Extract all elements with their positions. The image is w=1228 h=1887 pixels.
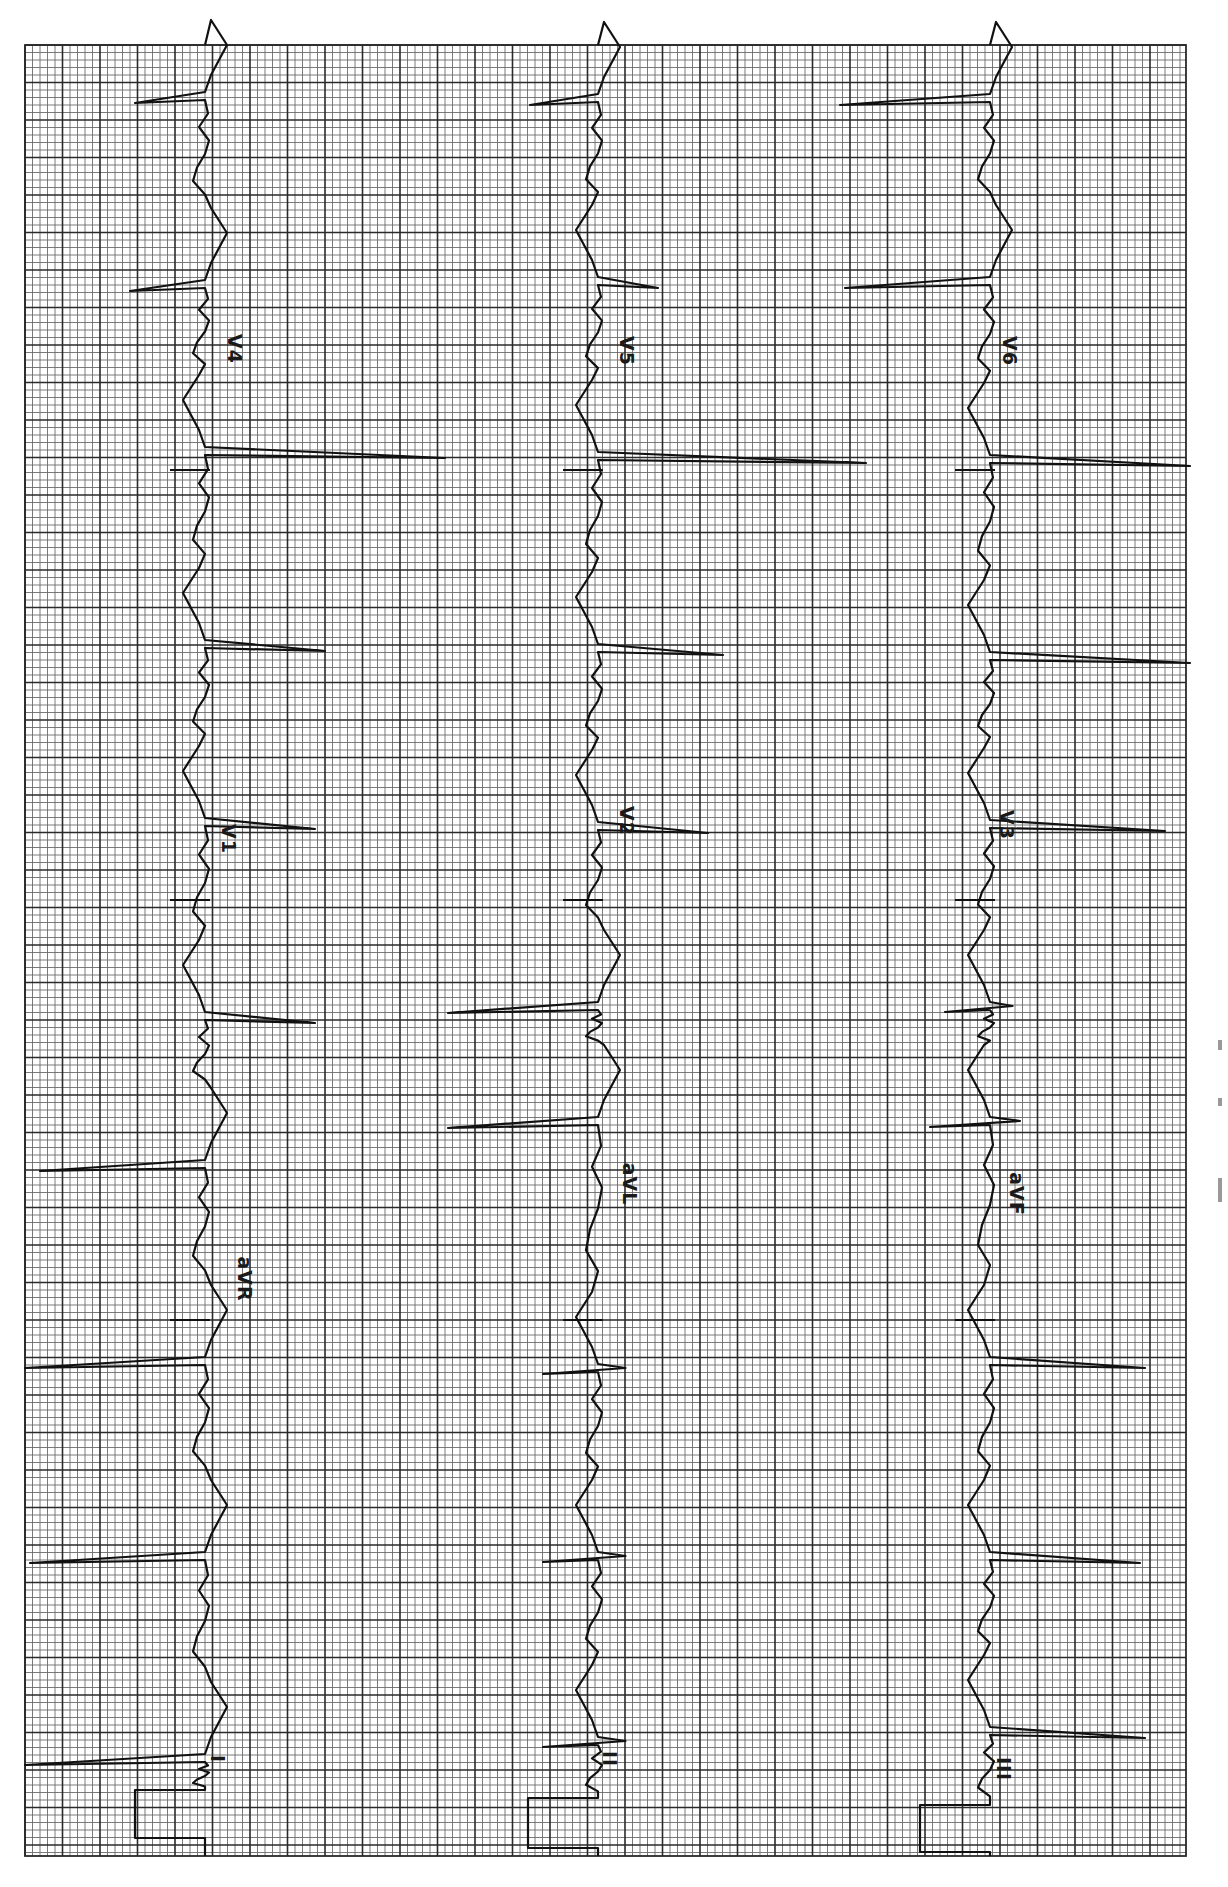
lead-label-v1: V1	[218, 824, 240, 854]
ecg-paper	[0, 0, 1228, 1887]
lead-label-v2: V2	[616, 806, 638, 836]
ecg-grid-major	[25, 45, 1186, 1856]
lead-label-v3: V3	[996, 810, 1018, 840]
lead-label-v5: V5	[616, 336, 638, 366]
caption-fragment	[1218, 1178, 1222, 1202]
lead-label-i: I	[207, 1755, 229, 1763]
lead-label-iii: III	[993, 1757, 1015, 1781]
caption-fragment	[1218, 1040, 1222, 1050]
ecg-trace-column-2	[448, 22, 866, 1856]
lead-label-v4: V4	[224, 334, 246, 364]
lead-label-avr: aVR	[234, 1256, 256, 1301]
lead-label-avl: aVL	[619, 1163, 641, 1206]
lead-label-ii: II	[599, 1751, 621, 1767]
lead-label-avf: aVF	[1006, 1172, 1028, 1216]
caption-fragment	[1218, 1098, 1222, 1106]
ecg-grid-minor	[25, 45, 1186, 1856]
lead-label-v6: V6	[999, 336, 1021, 366]
